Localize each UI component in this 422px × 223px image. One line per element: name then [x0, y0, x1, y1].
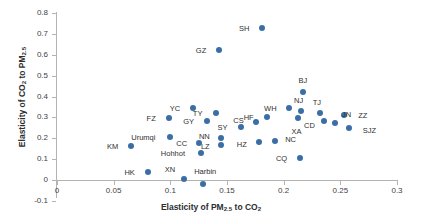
y-tick-mark	[52, 117, 56, 118]
data-point-label: YC	[170, 103, 180, 112]
x-axis-title-mid: to CO	[232, 202, 258, 212]
data-point	[332, 120, 338, 126]
data-point-label: CD	[304, 120, 315, 129]
data-point-label: SY	[218, 122, 228, 131]
data-point	[128, 143, 134, 149]
x-axis-title-sub1: 2.5	[224, 205, 233, 212]
data-point-label: HZ	[237, 140, 247, 149]
data-point-label: NJ	[294, 96, 303, 105]
data-point-label: BJ	[299, 76, 308, 85]
x-tick-label: 0.3	[377, 186, 417, 195]
x-tick-label: 0	[37, 186, 77, 195]
y-axis-title-prefix: Elasticity of CO	[17, 84, 27, 147]
data-point	[200, 181, 206, 187]
data-point-label: FZ	[147, 114, 156, 123]
data-point-label: Harbin	[194, 166, 216, 175]
data-point	[216, 47, 222, 53]
data-point	[297, 155, 303, 161]
data-point-label: Hohhot	[161, 149, 185, 158]
y-tick-mark	[52, 159, 56, 160]
y-tick-mark	[52, 97, 56, 98]
data-point	[298, 108, 304, 114]
y-tick-mark	[52, 34, 56, 35]
data-point-label: GZ	[196, 45, 206, 54]
data-point-label: ZZ	[358, 111, 367, 120]
data-point	[238, 124, 244, 130]
data-point-label: TJ	[313, 98, 321, 107]
x-tick-mark	[340, 181, 341, 185]
data-point-label: HF	[244, 113, 254, 122]
x-tick-mark	[114, 181, 115, 185]
data-point-label: TY	[193, 109, 203, 118]
x-tick-label: 0.05	[94, 186, 134, 195]
y-axis-title: Elasticity of CO2 to PM2.5	[17, 7, 27, 187]
x-tick-label: 0.1	[150, 186, 190, 195]
data-point-label: GY	[183, 116, 194, 125]
x-tick-label: 0.15	[207, 186, 247, 195]
x-axis-title: Elasticity of PM2.5 to CO2	[0, 202, 422, 212]
data-point-label: HK	[124, 168, 134, 177]
y-tick-mark	[52, 180, 56, 181]
y-axis-title-sub2: 2.5	[20, 47, 27, 56]
data-point-label: NC	[285, 135, 296, 144]
x-tick-label: 0.2	[264, 186, 304, 195]
x-axis-title-sub2: 2	[258, 205, 261, 212]
data-point-label: JN	[342, 110, 351, 119]
y-tick-mark	[52, 138, 56, 139]
y-axis-title-mid: to PM	[17, 55, 27, 81]
data-point-label: WH	[264, 103, 277, 112]
data-point-label: CQ	[276, 154, 287, 163]
data-point	[256, 139, 262, 145]
x-tick-mark	[397, 181, 398, 185]
data-point	[145, 169, 151, 175]
y-axis-title-sub1: 2	[20, 81, 27, 84]
data-point	[272, 138, 278, 144]
data-point	[204, 118, 210, 124]
data-point	[218, 142, 224, 148]
data-point-label: CC	[176, 139, 187, 148]
x-tick-label: 0.25	[320, 186, 360, 195]
x-tick-mark	[284, 181, 285, 185]
data-point-label: XN	[165, 165, 175, 174]
data-point-label: SH	[239, 24, 249, 33]
x-axis-title-prefix: Elasticity of PM	[161, 202, 224, 212]
plot-area	[57, 13, 397, 180]
data-point-label: KM	[107, 141, 118, 150]
y-tick-mark	[52, 76, 56, 77]
data-point	[181, 176, 187, 182]
data-point	[213, 110, 219, 116]
data-point-label: LZ	[201, 141, 210, 150]
x-tick-mark	[170, 181, 171, 185]
data-point-label: Urumqi	[131, 133, 155, 142]
y-tick-mark	[52, 55, 56, 56]
data-point-label: CS	[233, 115, 243, 124]
x-tick-mark	[57, 181, 58, 185]
data-point-label: NN	[199, 132, 210, 141]
x-tick-mark	[227, 181, 228, 185]
y-tick-mark	[52, 13, 56, 14]
data-point-label: SJZ	[363, 125, 376, 134]
scatter-chart-figure: 0.80.70.60.50.40.30.20.10-0.100.050.10.1…	[0, 0, 422, 223]
